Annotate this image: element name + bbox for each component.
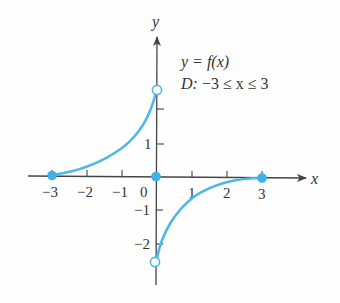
y-tick-label-neg2: −2 xyxy=(134,236,150,252)
open-point-top xyxy=(152,85,161,94)
curve-left-branch xyxy=(52,92,156,175)
y-axis-label: y xyxy=(150,13,160,31)
open-point-bottom xyxy=(150,257,159,266)
chart-svg: −3 −2 −1 0 1 2 3 1 −1 −2 x y y = f(x) D:… xyxy=(0,0,340,303)
y-tick-label-1: 1 xyxy=(144,136,152,152)
domain-label: D: −3 ≤ x ≤ 3 xyxy=(180,75,268,92)
x-tick-label-2: 2 xyxy=(223,185,231,201)
chart-figure: −3 −2 −1 0 1 2 3 1 −1 −2 x y y = f(x) D:… xyxy=(0,0,340,303)
x-tick-label-3: 3 xyxy=(258,186,266,202)
function-label: y = f(x) xyxy=(179,53,229,71)
x-tick-label-neg1: −1 xyxy=(112,184,128,200)
closed-point-origin xyxy=(151,172,161,182)
x-tick-label-neg3: −3 xyxy=(42,184,58,200)
y-axis xyxy=(156,37,157,285)
closed-point-neg3-0 xyxy=(47,171,57,181)
curve-right-branch xyxy=(157,178,262,258)
origin-label: 0 xyxy=(140,184,148,200)
x-axis-label: x xyxy=(310,170,318,187)
y-tick-label-neg1: −1 xyxy=(134,202,150,218)
x-tick-label-neg2: −2 xyxy=(77,184,93,200)
domain-prefix: D: xyxy=(180,75,198,92)
closed-point-3-0 xyxy=(257,173,267,183)
domain-expression: −3 ≤ x ≤ 3 xyxy=(198,75,269,92)
